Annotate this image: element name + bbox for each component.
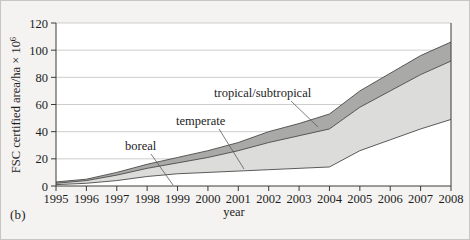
x-axis-tick-label: 2008 [439, 192, 464, 206]
series-label-tropical-subtropical: tropical/subtropical [214, 86, 312, 100]
x-axis-tick-label: 1995 [44, 192, 69, 206]
y-axis-title: FSC certified area/ha × 106 [8, 37, 23, 173]
y-axis-title-text: FSC certified area/ha × 106 [8, 37, 23, 173]
x-axis-tick-label: 2004 [317, 192, 343, 206]
x-axis-tick-label: 1996 [74, 192, 99, 206]
series-label-temperate: temperate [176, 114, 226, 128]
y-axis-tick-label: 100 [29, 44, 48, 58]
x-axis-tick-label: 2001 [226, 192, 251, 206]
y-axis-tick-label: 40 [36, 125, 49, 139]
x-axis-tick-label: 2003 [287, 192, 312, 206]
y-axis-tick-label: 20 [36, 152, 49, 166]
figure-panel: 020406080100120 199519961997199819992000… [0, 0, 470, 240]
x-axis-tick-label: 1999 [165, 192, 190, 206]
stacked-area-chart: 020406080100120 199519961997199819992000… [1, 1, 470, 240]
x-axis-title: year [223, 205, 245, 219]
series-label-boreal: boreal [125, 139, 157, 153]
x-axis-tick-labels: 1995199619971998199920002001200220032004… [44, 192, 464, 206]
x-axis-tick-label: 2006 [378, 192, 403, 206]
y-axis-tick-labels: 020406080100120 [29, 17, 48, 194]
x-axis-tick-label: 1997 [104, 192, 129, 206]
panel-label: (b) [10, 207, 26, 223]
y-axis-ticks [51, 23, 56, 186]
x-axis-tick-label: 2000 [195, 192, 220, 206]
x-axis-tick-label: 2007 [408, 192, 433, 206]
x-axis-ticks [56, 186, 451, 191]
y-axis-tick-label: 80 [36, 71, 49, 85]
y-axis-tick-label: 60 [36, 98, 49, 112]
x-axis-tick-label: 1998 [135, 192, 160, 206]
x-axis-tick-label: 2002 [256, 192, 281, 206]
x-axis-tick-label: 2005 [347, 192, 372, 206]
y-axis-tick-label: 120 [29, 17, 48, 31]
